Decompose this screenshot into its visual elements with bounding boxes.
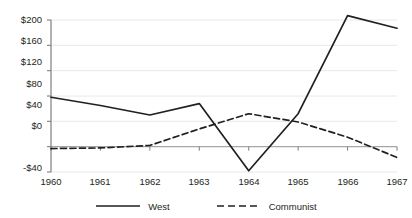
legend-swatch-dashed-line (216, 202, 262, 210)
legend-item-communist: Communist (216, 201, 317, 212)
plot-area (0, 0, 412, 218)
chart-legend: West Communist (0, 196, 412, 216)
series-line-communist (51, 114, 397, 158)
legend-swatch-solid-line (95, 202, 141, 210)
legend-item-west: West (95, 201, 169, 212)
legend-label-west: West (148, 201, 169, 212)
line-chart: $200 $160 $120 $80 $40 $0 -$40 1960 1961… (0, 0, 412, 218)
legend-label-communist: Communist (269, 201, 317, 212)
